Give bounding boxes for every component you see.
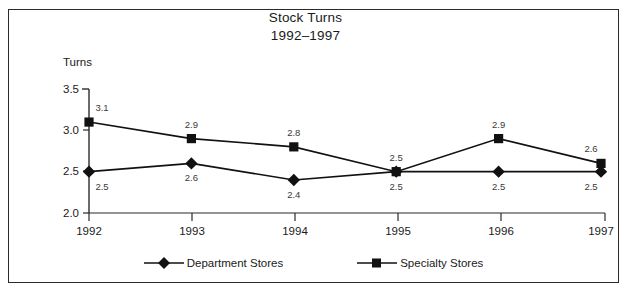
data-label: 2.6 (185, 172, 198, 183)
square-marker-icon (494, 134, 503, 143)
data-label: 2.5 (95, 181, 108, 192)
square-marker-icon (187, 134, 196, 143)
series-datalabels-specialty-stores: 3.12.92.82.52.92.6 (95, 102, 597, 163)
chart-figure: Stock Turns 1992–1997 Turns 3.5 3.0 2.5 … (0, 0, 629, 296)
plot-area: 3.5 3.0 2.5 2.0 1992 1993 1994 1995 1996… (0, 0, 629, 296)
x-tick-marks (89, 213, 501, 221)
series-line-specialty-stores (89, 122, 601, 172)
x-tick-label-1994: 1994 (282, 225, 308, 237)
x-tick-label-1992: 1992 (76, 225, 102, 237)
legend-item-specialty-stores[interactable]: Specialty Stores (357, 256, 483, 270)
data-label: 3.1 (95, 102, 108, 113)
x-tick-label-1997: 1997 (588, 225, 614, 237)
square-marker-icon (357, 256, 397, 270)
square-marker-icon (289, 142, 298, 151)
y-tick-label-3-0: 3.0 (63, 124, 79, 136)
series-datalabels-department-stores: 2.52.62.42.52.52.5 (95, 172, 597, 200)
legend-label-specialty-stores: Specialty Stores (400, 257, 483, 269)
y-tick-label-2-5: 2.5 (63, 165, 79, 177)
series-markers-specialty-stores (84, 117, 605, 176)
chart-legend: Department Stores Specialty Stores (8, 256, 619, 270)
data-label: 2.5 (390, 181, 403, 192)
diamond-marker-icon (144, 256, 184, 270)
x-tick-label-1996: 1996 (488, 225, 514, 237)
data-label: 2.6 (584, 143, 597, 154)
diamond-marker-icon (288, 174, 300, 186)
square-marker-icon (84, 117, 93, 126)
data-label: 2.9 (185, 119, 198, 130)
data-label: 2.5 (390, 152, 403, 163)
diamond-marker-icon (492, 165, 504, 177)
data-label: 2.9 (492, 119, 505, 130)
legend-item-department-stores[interactable]: Department Stores (144, 256, 284, 270)
series-line-department-stores (89, 163, 601, 180)
y-tick-label-3-5: 3.5 (63, 83, 79, 95)
legend-label-department-stores: Department Stores (187, 257, 284, 269)
data-label: 2.5 (492, 181, 505, 192)
data-label: 2.5 (584, 181, 597, 192)
y-tick-label-2-0: 2.0 (63, 207, 79, 219)
diamond-marker-icon (185, 157, 197, 169)
x-tick-label-1995: 1995 (385, 225, 411, 237)
axis-lines (82, 89, 605, 221)
data-label: 2.8 (287, 127, 300, 138)
diamond-marker-icon (83, 165, 95, 177)
x-tick-label-1993: 1993 (179, 225, 205, 237)
data-label: 2.4 (287, 189, 300, 200)
